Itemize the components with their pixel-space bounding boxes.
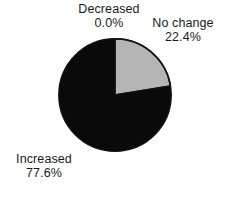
pie-label-increased-value: 77.6%: [2, 167, 86, 181]
pie-label-no-change-value: 22.4%: [143, 31, 223, 45]
pie-label-no-change: No change 22.4%: [143, 17, 223, 44]
pie-label-increased-name: Increased: [2, 153, 86, 167]
pie-label-increased: Increased 77.6%: [2, 153, 86, 180]
pie-svg: [58, 38, 172, 152]
pie-label-no-change-name: No change: [143, 17, 223, 31]
pie-chart-figure: Decreased 0.0% No change 22.4% Increased…: [0, 0, 227, 197]
pie-label-decreased-name: Decreased: [60, 3, 158, 17]
pie-chart-graphic: [58, 38, 172, 152]
